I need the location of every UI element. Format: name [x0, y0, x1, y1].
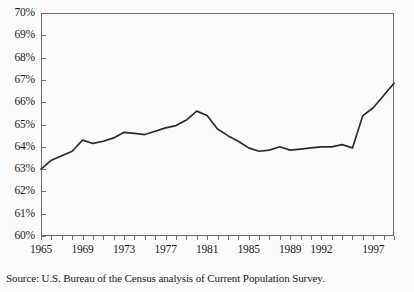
source-note: Source: U.S. Bureau of the Census analys…	[6, 272, 325, 284]
chart-page: 60%61%62%63%64%65%66%67%68%69%70% 196519…	[0, 0, 414, 292]
series-line-share-of-households	[41, 83, 394, 169]
data-line-svg	[0, 0, 414, 292]
